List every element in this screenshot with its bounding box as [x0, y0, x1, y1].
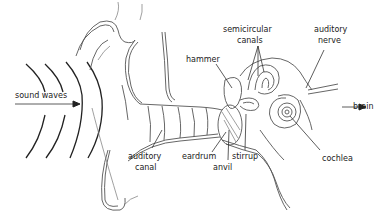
leader-lines: [152, 46, 362, 160]
label-auditory-nerve-line2: nerve: [318, 36, 341, 45]
label-semicircular-canals-line1: semicircular: [223, 25, 272, 34]
label-cochlea: cochlea: [322, 154, 353, 163]
label-hammer: hammer: [186, 55, 220, 64]
label-semicircular-canals-line2: canals: [237, 36, 263, 45]
sound-waves-graphic: [26, 62, 102, 158]
label-auditory-canal-line1: auditory: [128, 152, 161, 161]
label-auditory-nerve-line1: auditory: [314, 25, 347, 34]
outer-ear-graphic: [76, 2, 175, 120]
label-eardrum: eardrum: [182, 152, 216, 161]
label-stirrup: stirrup: [232, 152, 258, 161]
label-anvil: anvil: [213, 163, 232, 172]
label-sound-waves: sound waves: [15, 91, 67, 100]
ear-diagram: sound waves semicircular canals auditory…: [0, 0, 388, 224]
inner-ear-graphic: [218, 58, 338, 210]
label-brain: brain: [353, 102, 374, 111]
label-auditory-canal-line2: canal: [135, 163, 157, 172]
